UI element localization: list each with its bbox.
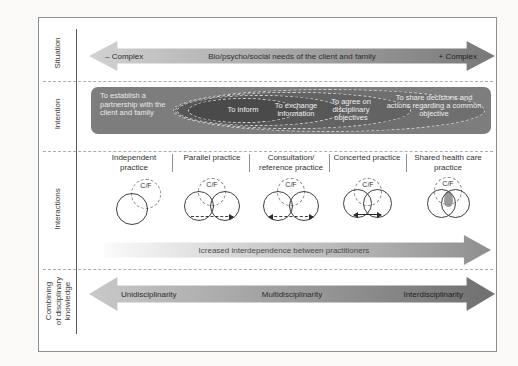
header-separator [329,154,330,172]
oval-agree-label: To agree on disciplinary objectives [317,98,385,122]
arrowhead-left [353,212,358,218]
sidebar-label-situation: Situation [53,37,63,68]
arrowhead-right [229,214,234,220]
figure-frame: Situation Intention Interactions Combini… [38,17,497,352]
arrowhead-right [377,212,382,218]
situation-center-label: Bio/psycho/social needs of the client an… [89,52,495,61]
combining-arrow: Unidisciplinarity Multidisciplinarity In… [89,277,495,311]
header-separator [249,154,250,172]
situation-arrow: – Complex Bio/psycho/social needs of the… [89,41,495,71]
row-separator-intention-interactions [43,151,493,152]
sidebar-label-intention: Intention [53,99,63,130]
combining-right-label: Interdisciplinarity [403,290,463,299]
two-way-solid-arrow [354,214,381,215]
practice-header-consultation: Consultation/ reference practice [251,153,331,174]
partnership-label: To establish a partnership with the clie… [100,92,166,118]
sidebar-divider-line [76,29,77,334]
practice-header-independent: Independent practice [99,153,169,174]
practice-header-concerted: Concerted practice [332,153,402,163]
sidebar-label-combining: Combining of disciplinary knowledge [44,277,73,325]
situation-right-label: + Complex [439,52,477,61]
practice-header-parallel: Parallel practice [177,153,247,163]
one-way-dashed-arrow [191,216,233,217]
practice-header-shared: Shared health care practice [403,153,493,174]
sidebar-label-interactions: Interactions [53,188,63,229]
practitioner-circle [116,193,148,225]
oval-inform-label: To inform [228,106,259,114]
header-separator [172,154,173,172]
row-separator-situation-intention [43,81,493,82]
interdependence-label: Icreased interdependence between practit… [104,246,464,255]
row-separator-interactions-combining [43,269,493,270]
interdependence-arrow: Icreased interdependence between practit… [104,235,491,265]
practitioner-circle [441,189,470,218]
arrowhead-left [268,214,273,220]
intention-panel: To establish a partnership with the clie… [91,87,491,134]
oval-share-label: To share decisions and actions regarding… [385,94,483,118]
two-way-dashed-arrow [269,216,313,217]
arrowhead-right [309,214,314,220]
